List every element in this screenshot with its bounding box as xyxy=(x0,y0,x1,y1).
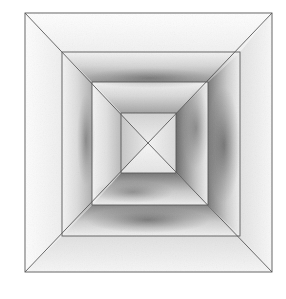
figure-canvas: Nested squares perspective tunnel illusi… xyxy=(0,0,286,299)
paper-grain-overlay xyxy=(25,13,272,272)
nested-squares-illusion xyxy=(0,0,286,299)
